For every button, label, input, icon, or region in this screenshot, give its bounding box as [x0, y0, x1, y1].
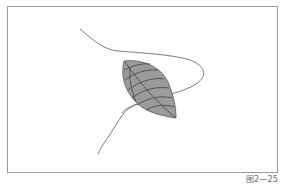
vine-lower — [98, 101, 146, 154]
leaf-illustration — [0, 0, 285, 186]
figure-canvas: 图2—25 — [0, 0, 285, 186]
figure-caption: 图2—25 — [246, 175, 278, 185]
